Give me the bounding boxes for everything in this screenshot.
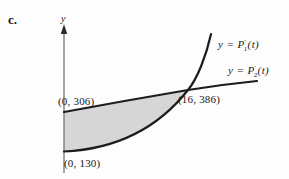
- curve-p1-prime-label: y = P′1(t): [217, 38, 259, 53]
- function-graph: c. y (0, 306) (0, 130) (16, 386) y = P′1…: [0, 0, 289, 179]
- point-label-16-386: (16, 386): [178, 93, 220, 106]
- y-axis-label: y: [60, 13, 66, 24]
- point-label-0-306: (0, 306): [58, 95, 95, 108]
- y-axis-arrow-icon: [61, 24, 67, 34]
- curve-p2-prime-label: y = P′2(t): [227, 64, 269, 79]
- textbook-figure-panel-c: c. y (0, 306) (0, 130) (16, 386) y = P′1…: [0, 0, 289, 179]
- part-label: c.: [8, 12, 17, 27]
- point-label-0-130: (0, 130): [64, 157, 101, 170]
